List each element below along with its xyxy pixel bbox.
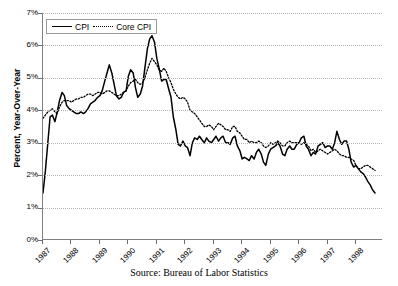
- legend-label-cpi: CPI: [75, 22, 89, 32]
- y-tick-label: 7%: [2, 9, 38, 17]
- x-tick-mark: [298, 240, 299, 244]
- plot-area: [42, 13, 382, 240]
- x-tick-mark: [241, 240, 242, 244]
- x-tick-mark: [42, 240, 43, 244]
- gridline: [43, 110, 382, 111]
- legend-label-core-cpi: Core CPI: [116, 22, 151, 32]
- x-tick-mark: [327, 240, 328, 244]
- gridline: [43, 78, 382, 79]
- x-tick-mark: [70, 240, 71, 244]
- series-line-cpi: [43, 36, 375, 193]
- x-tick-mark: [355, 240, 356, 244]
- series-line-core-cpi: [43, 58, 375, 170]
- x-tick-mark: [213, 240, 214, 244]
- x-tick-mark: [270, 240, 271, 244]
- legend-item-core-cpi[interactable]: Core CPI: [93, 22, 151, 32]
- legend-swatch-solid-icon: [52, 26, 72, 27]
- gridline: [43, 45, 382, 46]
- x-tick-mark: [99, 240, 100, 244]
- gridline: [43, 208, 382, 209]
- y-tick-label: 1%: [2, 203, 38, 211]
- chart-legend: CPI Core CPI: [46, 19, 157, 34]
- chart-page: Percent, Year-Over-Year 0%1%2%3%4%5%6%7%…: [0, 0, 398, 286]
- x-tick-mark: [184, 240, 185, 244]
- y-tick-label: 0%: [2, 236, 38, 244]
- x-tick-mark: [127, 240, 128, 244]
- legend-swatch-dotted-icon: [93, 26, 113, 27]
- gridline: [43, 13, 382, 14]
- x-tick-mark: [156, 240, 157, 244]
- gridline: [43, 143, 382, 144]
- series-canvas: [43, 13, 382, 239]
- plot-inner: [43, 13, 382, 239]
- gridline: [43, 175, 382, 176]
- legend-item-cpi[interactable]: CPI: [52, 22, 89, 32]
- y-axis-title: Percent, Year-Over-Year: [12, 38, 22, 198]
